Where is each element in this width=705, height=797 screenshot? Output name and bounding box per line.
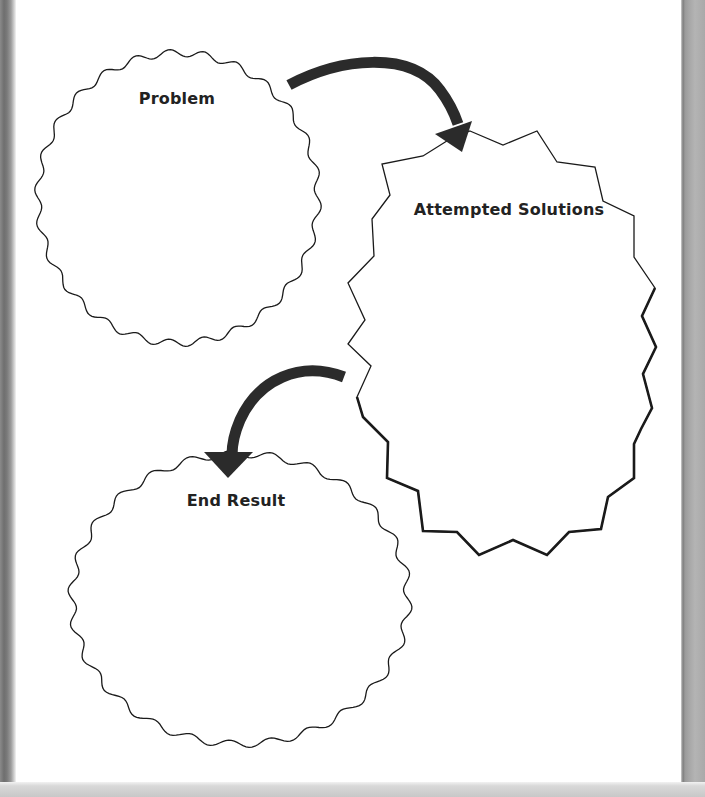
attempted-solutions-burst (348, 131, 656, 555)
arrow-problem-to-attempted (289, 62, 472, 152)
end-result-label: End Result (187, 491, 286, 510)
problem-label: Problem (139, 89, 215, 108)
organizer-diagram (0, 0, 705, 797)
attempted-solutions-label: Attempted Solutions (414, 200, 604, 219)
